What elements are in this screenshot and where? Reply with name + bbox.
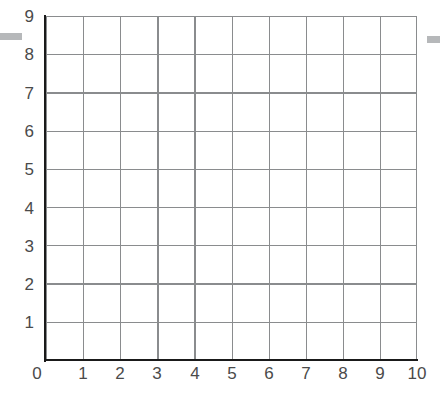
right-edge-mark — [427, 36, 440, 43]
y-tick-label-4: 4 — [8, 200, 34, 217]
x-tick-label-5: 5 — [217, 365, 247, 382]
x-tick-label-3: 3 — [142, 365, 172, 382]
left-edge-mark — [0, 33, 22, 40]
x-axis-line — [44, 359, 418, 361]
y-tick-label-5: 5 — [8, 161, 34, 178]
x-tick-label-10: 10 — [402, 365, 432, 382]
x-tick-label-7: 7 — [291, 365, 321, 382]
y-tick-label-6: 6 — [8, 123, 34, 140]
x-tick-label-2: 2 — [105, 365, 135, 382]
y-axis-line — [44, 15, 46, 362]
y-tick-label-7: 7 — [8, 85, 34, 102]
y-tick-label-2: 2 — [8, 276, 34, 293]
x-tick-label-0: 0 — [22, 365, 52, 382]
coordinate-grid-figure: 9 8 7 6 5 4 3 2 1 0 1 2 3 4 5 6 7 8 9 10 — [0, 0, 440, 401]
grid-lines — [46, 16, 417, 360]
y-tick-label-1: 1 — [8, 314, 34, 331]
x-tick-label-9: 9 — [365, 365, 395, 382]
plot-area — [46, 16, 417, 360]
y-tick-label-8: 8 — [8, 46, 34, 63]
x-tick-label-6: 6 — [254, 365, 284, 382]
x-tick-label-1: 1 — [68, 365, 98, 382]
x-tick-label-8: 8 — [328, 365, 358, 382]
x-tick-label-4: 4 — [180, 365, 210, 382]
y-tick-label-9: 9 — [8, 8, 34, 25]
y-tick-label-3: 3 — [8, 238, 34, 255]
